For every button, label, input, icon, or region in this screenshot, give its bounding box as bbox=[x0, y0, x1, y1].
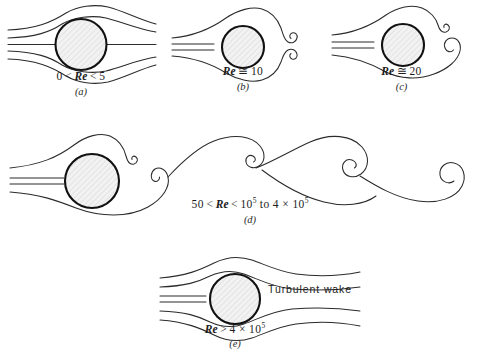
cylinder-panel-d bbox=[65, 154, 119, 208]
panel-letter-b: (b) bbox=[163, 81, 323, 92]
caption-b-value: 10 bbox=[251, 65, 263, 77]
caption-a-value: 5 bbox=[99, 70, 105, 82]
caption-e-value: 4 × 10 bbox=[230, 323, 262, 335]
caption-panel-d: 50<Re<105 to 4 × 105 bbox=[140, 196, 360, 210]
panel-letter-d: (d) bbox=[140, 214, 360, 225]
flow-diagram-svg bbox=[0, 0, 481, 359]
caption-c-symbol: Re bbox=[381, 65, 394, 77]
caption-e-symbol: Re bbox=[205, 323, 218, 335]
caption-d-exponent: 5 bbox=[253, 196, 257, 205]
caption-d-op1: < bbox=[204, 198, 216, 210]
caption-d-op2: < bbox=[229, 198, 241, 210]
caption-a-prefix: 0 bbox=[57, 70, 63, 82]
cylinder-panel-c bbox=[382, 24, 424, 66]
caption-a-op2: < bbox=[87, 70, 99, 82]
panel-letter-e: (e) bbox=[145, 338, 325, 349]
cylinder-panel-a bbox=[56, 19, 107, 70]
caption-b-op2: ≅ bbox=[236, 65, 251, 77]
cylinder-panel-e bbox=[210, 274, 260, 324]
caption-c-value: 20 bbox=[409, 65, 421, 77]
caption-a-op1: < bbox=[63, 70, 75, 82]
caption-e-op2: > bbox=[218, 323, 230, 335]
panel-letter-c: (c) bbox=[322, 81, 481, 92]
caption-d-value: 10 bbox=[240, 198, 252, 210]
cylinder-flow-regimes-figure: 0<Re<5 (a) Re≅10 (b) Re≅20 (c) 50<Re<105… bbox=[0, 0, 481, 359]
turbulent-wake-annotation: Turbulent wake bbox=[268, 283, 352, 295]
caption-e-exponent: 5 bbox=[261, 321, 265, 330]
caption-panel-c: Re≅20 bbox=[322, 64, 481, 78]
caption-a-symbol: Re bbox=[75, 70, 88, 82]
caption-d-suffix: to 4 × 10 bbox=[260, 198, 305, 210]
caption-d-suffix-exponent: 5 bbox=[305, 196, 309, 205]
cylinder-panel-b bbox=[222, 26, 264, 68]
caption-panel-a: 0<Re<5 bbox=[0, 70, 162, 82]
panel-letter-a: (a) bbox=[0, 86, 162, 97]
caption-panel-b: Re≅10 bbox=[163, 64, 323, 78]
caption-c-op2: ≅ bbox=[394, 65, 409, 77]
caption-d-symbol: Re bbox=[216, 198, 229, 210]
caption-d-prefix: 50 bbox=[192, 198, 204, 210]
caption-panel-e: Re>4 × 105 bbox=[145, 321, 325, 335]
caption-b-symbol: Re bbox=[223, 65, 236, 77]
